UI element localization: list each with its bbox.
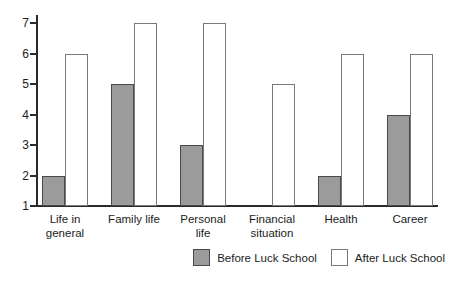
bar-before — [42, 176, 65, 207]
y-axis-line — [36, 15, 38, 207]
bar-after — [134, 23, 157, 206]
bar-after — [65, 54, 88, 207]
y-axis-tick-label: 2 — [9, 168, 29, 184]
y-axis-tick — [30, 205, 36, 207]
bar-after — [341, 54, 364, 207]
legend: Before Luck School After Luck School — [193, 249, 445, 266]
y-axis-tick-label: 4 — [9, 107, 29, 123]
bar-before — [111, 84, 134, 206]
legend-swatch-after-luck-school — [331, 249, 348, 266]
bar-before — [180, 145, 203, 206]
y-axis-tick-label: 3 — [9, 137, 29, 153]
y-axis-tick — [30, 144, 36, 146]
bar-after — [203, 23, 226, 206]
y-axis-tick — [30, 114, 36, 116]
legend-label-after-luck-school: After Luck School — [355, 252, 445, 264]
y-axis-tick — [30, 83, 36, 85]
bar-chart: 1234567Life in generalFamily lifePersona… — [0, 0, 461, 285]
y-axis-tick — [30, 22, 36, 24]
bar-after — [410, 54, 433, 207]
bar-before — [318, 176, 341, 207]
legend-label-before-luck-school: Before Luck School — [217, 252, 317, 264]
bar-before — [387, 115, 410, 207]
y-axis-tick-label: 5 — [9, 76, 29, 92]
category-label: Career — [368, 212, 452, 226]
x-axis-line — [36, 205, 438, 207]
legend-swatch-before-luck-school — [193, 249, 210, 266]
y-axis-tick — [30, 53, 36, 55]
y-axis-tick-label: 6 — [9, 46, 29, 62]
bar-after — [272, 84, 295, 206]
y-axis-tick — [30, 175, 36, 177]
y-axis-tick-label: 7 — [9, 15, 29, 31]
